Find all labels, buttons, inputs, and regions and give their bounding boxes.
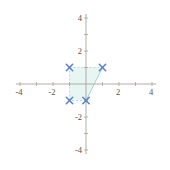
- x-tick-label: -4: [15, 87, 23, 97]
- x-tick-label: 2: [116, 87, 120, 97]
- x-tick-label: -2: [48, 87, 55, 97]
- x-tick-label: 4: [149, 87, 154, 97]
- y-tick-label: 2: [78, 46, 82, 56]
- y-tick-label: 4: [78, 13, 83, 23]
- y-tick-label: -2: [75, 112, 82, 122]
- figure-container: -4-224-4-224: [0, 0, 170, 170]
- y-tick-label: -4: [75, 145, 83, 155]
- coordinate-plane-chart: -4-224-4-224: [0, 0, 170, 170]
